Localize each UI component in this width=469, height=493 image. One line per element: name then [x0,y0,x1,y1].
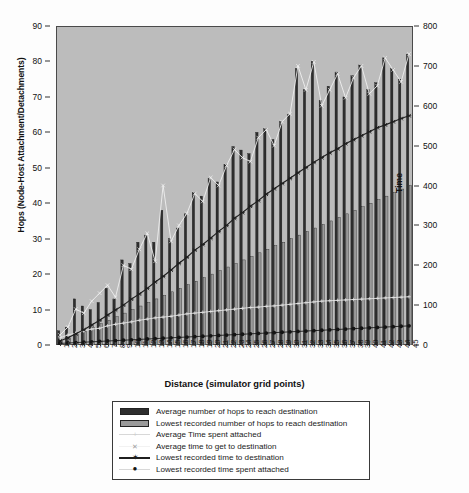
legend-marker-circle-icon: ● [133,465,138,473]
legend-item: +Average Time spent attached [118,429,364,441]
y-axis-left-tick-label: 10 [33,305,42,314]
legend-label: Lowest recorded number of hops to reach … [156,418,347,429]
x-axis-tick [393,342,394,346]
x-axis-tick [203,342,204,346]
x-axis-title: Distance (simulator grid points) [56,379,413,389]
x-axis-tick [179,342,180,346]
y-axis-left-tick [45,61,50,62]
x-axis-tick [227,342,228,346]
x-axis-tick [409,342,410,346]
y-axis-right-tick [414,185,419,186]
x-axis-tick [322,342,323,346]
y-axis-right-tick [414,65,419,66]
x-axis-tick [116,342,117,346]
y-axis-right-tick-label: 400 [423,181,437,190]
legend-marker-x-icon: ✕ [132,443,138,450]
x-axis-tick [68,342,69,346]
y-axis-left-tick [45,309,50,310]
x-axis-ticks: 1234567891011121314151617181920212223242… [56,346,413,376]
y-axis-left-tick-label: 20 [33,270,42,279]
plot-canvas [56,26,413,345]
line-series [58,52,411,337]
x-axis-tick [187,342,188,346]
y-axis-left-title: Hops (Node-Host Attachment/Detachments) [16,20,26,270]
plot-area [56,26,413,345]
y-axis-left-tick-label: 60 [33,128,42,137]
legend-label: Lowest recorded time spent attached [156,464,289,475]
y-axis-left-tick-label: 90 [33,22,42,31]
y-axis-right-tick-label: 300 [423,221,437,230]
legend-item: ●Lowest recorded time spent attached [118,464,364,476]
y-axis-left-tick-label: 70 [33,93,42,102]
legend-key [118,406,152,417]
x-axis-tick [306,342,307,346]
x-axis-tick [108,342,109,346]
x-axis-tick [60,342,61,346]
x-axis-tick [100,342,101,346]
y-axis-left-tick-label: 40 [33,199,42,208]
x-axis-tick [298,342,299,346]
x-axis-tick [282,342,283,346]
x-axis-tick [195,342,196,346]
x-axis-tick [401,342,402,346]
y-axis-right-tick-label: 100 [423,301,437,310]
y-axis-left-tick [45,132,50,133]
x-axis-tick [76,342,77,346]
legend-key [118,418,152,429]
y-axis-right-tick [414,305,419,306]
y-axis-left-tick [45,238,50,239]
legend-label: Lowest recorded time to destination [156,452,284,463]
chart-figure: 0102030405060708090 Hops (Node-Host Atta… [0,0,469,493]
x-axis-tick [330,342,331,346]
y-axis-left-tick [45,167,50,168]
y-axis-right-tick [414,265,419,266]
legend-item: ✶Lowest recorded time to destination [118,452,364,464]
legend-label: Average time to get to destination [156,441,276,452]
chart-legend: Average number of hops to reach destinat… [112,401,370,480]
legend-label: Average Time spent attached [156,429,261,440]
legend-key: ● [118,464,152,475]
y-axis-left-tick-label: 80 [33,57,42,66]
y-axis-right-tick-label: 200 [423,261,437,270]
x-axis-tick [274,342,275,346]
legend-label: Average number of hops to reach destinat… [156,406,317,417]
legend-swatch [120,408,149,415]
x-axis-tick-label: 45 [412,340,420,348]
legend-item: Average number of hops to reach destinat… [118,406,364,418]
legend-item: Lowest recorded number of hops to reach … [118,418,364,430]
legend-marker-plus-icon: + [133,431,138,439]
legend-key: ✶ [118,452,152,463]
legend-swatch [120,420,149,427]
legend-item: ✕Average time to get to destination [118,441,364,453]
y-axis-left-tick-label: 50 [33,164,42,173]
x-axis-tick [235,342,236,346]
x-axis-tick [354,342,355,346]
y-axis-right-tick [414,26,419,27]
x-axis-tick [171,342,172,346]
y-axis-left-tick [45,96,50,97]
y-axis-right: 0100200300400500600700800 [413,26,465,345]
y-axis-left-tick-label: 30 [33,234,42,243]
y-axis-right-tick-label: 0 [423,341,428,350]
x-axis-tick [84,342,85,346]
legend-key: + [118,429,152,440]
x-axis-tick [219,342,220,346]
y-axis-right-tick [414,105,419,106]
y-axis-left-tick [45,274,50,275]
x-axis-tick [92,342,93,346]
legend-key: ✕ [118,441,152,452]
y-axis-left-tick-label: 0 [37,341,42,350]
y-axis-right-tick-label: 800 [423,22,437,31]
y-axis-left-tick [45,26,50,27]
x-axis-tick [346,342,347,346]
y-axis-right-tick-label: 500 [423,141,437,150]
y-axis-right-title: Time [394,153,404,213]
x-axis-tick [314,342,315,346]
legend-marker-star-icon: ✶ [132,454,139,462]
x-axis-tick [211,342,212,346]
x-axis-tick [338,342,339,346]
y-axis-left-tick [45,203,50,204]
x-axis-tick [290,342,291,346]
y-axis-right-tick-label: 600 [423,102,437,111]
y-axis-left-tick [45,345,50,346]
